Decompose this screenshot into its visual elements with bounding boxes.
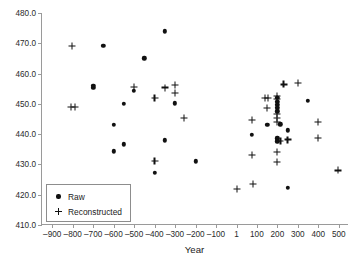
data-point-reconstructed <box>248 152 255 159</box>
x-axis-tick-label: –600 <box>105 230 123 239</box>
data-point-raw <box>111 149 115 153</box>
x-axis-tick-label: –300 <box>166 230 184 239</box>
data-point-reconstructed <box>249 180 256 187</box>
x-axis-tick-label: 100 <box>250 230 264 239</box>
x-axis-tick-label: 500 <box>332 230 346 239</box>
data-point-reconstructed <box>274 149 281 156</box>
data-point-raw <box>111 123 115 127</box>
y-axis-tick-label: 420.0 <box>16 190 37 199</box>
y-axis-tick-label: 460.0 <box>16 69 37 78</box>
x-axis-tick <box>114 224 115 228</box>
x-axis-tick <box>73 224 74 228</box>
x-axis-tick-label: –200 <box>186 230 204 239</box>
y-axis-tick <box>38 225 42 226</box>
x-axis-tick <box>52 224 53 228</box>
data-point-raw <box>285 186 289 190</box>
x-axis-tick-label: –800 <box>64 230 82 239</box>
data-point-reconstructed <box>172 89 179 96</box>
data-point-reconstructed <box>334 167 341 174</box>
data-point-reconstructed <box>294 79 301 86</box>
x-axis-tick-label: 400 <box>311 230 325 239</box>
legend-label-reconstructed: Reconstructed <box>68 207 122 217</box>
x-axis-tick <box>175 224 176 228</box>
data-point-reconstructed <box>315 119 322 126</box>
x-axis-tick <box>277 224 278 228</box>
x-axis-tick-label: –900 <box>43 230 61 239</box>
y-axis-tick-label: 470.0 <box>16 39 37 48</box>
data-point-raw <box>91 86 95 90</box>
data-point-raw <box>306 99 310 103</box>
x-axis-title: Year <box>41 244 348 255</box>
data-point-raw <box>152 171 156 175</box>
data-point-raw <box>265 123 269 127</box>
legend-label-raw: Raw <box>68 192 85 202</box>
data-point-raw <box>173 101 177 105</box>
x-axis-tick <box>257 224 258 228</box>
data-point-reconstructed <box>274 158 281 165</box>
data-point-reconstructed <box>274 119 281 126</box>
data-point-reconstructed <box>68 43 75 50</box>
x-axis-tick <box>298 224 299 228</box>
data-point-reconstructed <box>248 117 255 124</box>
data-point-raw <box>142 56 146 60</box>
data-point-reconstructed <box>274 96 281 103</box>
legend-dot-icon <box>54 192 63 201</box>
x-axis-tick-label: –500 <box>125 230 143 239</box>
x-axis-tick <box>134 224 135 228</box>
data-point-reconstructed <box>161 84 168 91</box>
data-point-raw <box>101 44 105 48</box>
x-axis-tick-label: –100 <box>207 230 225 239</box>
data-point-reconstructed <box>172 82 179 89</box>
y-axis-tick-label: 450.0 <box>16 99 37 108</box>
data-point-raw <box>163 138 167 142</box>
x-axis-tick-label: 300 <box>291 230 305 239</box>
x-axis-tick <box>155 224 156 228</box>
x-axis-tick <box>196 224 197 228</box>
chart-legend: Raw Reconstructed <box>46 184 131 222</box>
data-point-reconstructed <box>284 136 291 143</box>
data-point-reconstructed <box>280 81 287 88</box>
data-point-reconstructed <box>264 105 271 112</box>
data-point-raw <box>250 133 254 137</box>
data-point-raw <box>122 142 126 146</box>
y-axis-tick-label: 410.0 <box>16 221 37 230</box>
legend-plus-icon <box>54 207 63 216</box>
data-point-raw <box>163 29 167 33</box>
x-axis-tick-label: –700 <box>84 230 102 239</box>
x-axis-tick <box>339 224 340 228</box>
data-point-reconstructed <box>315 134 322 141</box>
data-point-reconstructed <box>233 185 240 192</box>
y-axis-tick-label: 440.0 <box>16 130 37 139</box>
x-axis-tick <box>237 224 238 228</box>
data-point-reconstructed <box>277 138 284 145</box>
data-point-reconstructed <box>131 83 138 90</box>
x-axis-tick <box>318 224 319 228</box>
data-point-reconstructed <box>181 115 188 122</box>
x-axis-tick-label: –400 <box>145 230 163 239</box>
data-point-raw <box>122 101 126 105</box>
y-axis-tick-label: 480.0 <box>16 9 37 18</box>
data-point-raw <box>285 128 289 132</box>
data-point-reconstructed <box>71 103 78 110</box>
x-axis-tick <box>93 224 94 228</box>
x-axis-tick-label: 200 <box>271 230 285 239</box>
legend-item-reconstructed: Reconstructed <box>54 204 124 219</box>
legend-item-raw: Raw <box>54 189 124 204</box>
y-axis-tick-label: 430.0 <box>16 160 37 169</box>
x-axis-tick-label: 1 <box>234 230 239 239</box>
data-point-reconstructed <box>151 94 158 101</box>
scatter-chart: 410.0420.0430.0440.0450.0460.0470.0480.0… <box>0 0 363 267</box>
data-point-reconstructed <box>265 94 272 101</box>
data-point-reconstructed <box>151 158 158 165</box>
x-axis-tick <box>216 224 217 228</box>
data-point-raw <box>193 159 197 163</box>
